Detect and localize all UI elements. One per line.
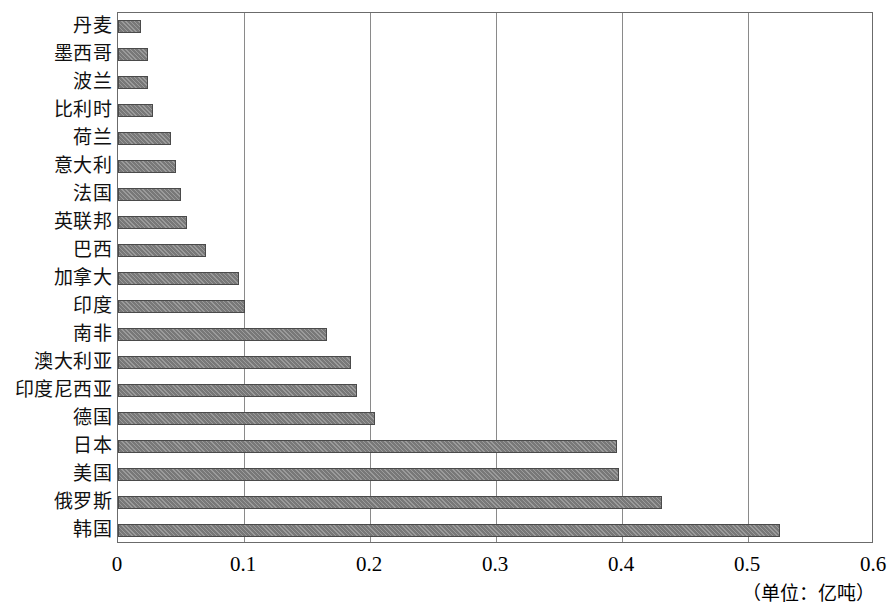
category-label: 韩国 <box>0 516 112 544</box>
bar-row <box>118 433 872 461</box>
bar <box>118 244 206 257</box>
category-label: 南非 <box>0 320 112 348</box>
bar <box>118 272 239 285</box>
bar <box>118 20 141 33</box>
category-label: 日本 <box>0 432 112 460</box>
x-tick-label: 0.5 <box>712 552 782 577</box>
bar <box>118 160 176 173</box>
bar-chart: 丹麦墨西哥波兰比利时荷兰意大利法国英联邦巴西加拿大印度南非澳大利亚印度尼西亚德国… <box>0 0 887 608</box>
bar <box>118 468 619 481</box>
category-label: 德国 <box>0 404 112 432</box>
category-label: 巴西 <box>0 236 112 264</box>
bar-row <box>118 181 872 209</box>
bar <box>118 48 148 61</box>
bar <box>118 496 662 509</box>
unit-annotation: （单位：亿吨） <box>742 578 875 605</box>
bar <box>118 328 327 341</box>
bar <box>118 412 375 425</box>
x-tick-label: 0 <box>82 552 152 577</box>
plot-area <box>117 12 873 543</box>
category-label: 印度 <box>0 292 112 320</box>
bar-row <box>118 405 872 433</box>
bar-row <box>118 209 872 237</box>
category-label: 丹麦 <box>0 12 112 40</box>
bar-row <box>118 69 872 97</box>
bar <box>118 104 153 117</box>
x-tick-label: 0.1 <box>208 552 278 577</box>
x-tick-label: 0.2 <box>334 552 404 577</box>
bar <box>118 356 351 369</box>
bar-row <box>118 153 872 181</box>
category-label: 美国 <box>0 460 112 488</box>
category-axis-labels: 丹麦墨西哥波兰比利时荷兰意大利法国英联邦巴西加拿大印度南非澳大利亚印度尼西亚德国… <box>0 12 112 543</box>
category-label: 英联邦 <box>0 208 112 236</box>
bar-row <box>118 489 872 517</box>
category-label: 印度尼西亚 <box>0 376 112 404</box>
bar-row <box>118 265 872 293</box>
bar <box>118 384 357 397</box>
bar <box>118 188 181 201</box>
bar <box>118 300 245 313</box>
x-tick-label: 0.6 <box>838 552 887 577</box>
category-label: 澳大利亚 <box>0 348 112 376</box>
x-tick-label: 0.4 <box>586 552 656 577</box>
bar-row <box>118 237 872 265</box>
category-label: 荷兰 <box>0 124 112 152</box>
bar <box>118 216 187 229</box>
bar-row <box>118 349 872 377</box>
bar-row <box>118 97 872 125</box>
category-label: 法国 <box>0 180 112 208</box>
bar-row <box>118 461 872 489</box>
category-label: 意大利 <box>0 152 112 180</box>
bar-row <box>118 125 872 153</box>
bars-container <box>118 13 872 542</box>
category-label: 比利时 <box>0 96 112 124</box>
category-label: 波兰 <box>0 68 112 96</box>
bar <box>118 440 617 453</box>
bar <box>118 132 171 145</box>
bar <box>118 76 148 89</box>
bar-row <box>118 13 872 41</box>
bar-row <box>118 41 872 69</box>
bar <box>118 524 780 537</box>
bar-row <box>118 321 872 349</box>
category-label: 加拿大 <box>0 264 112 292</box>
bar-row <box>118 377 872 405</box>
bar-row <box>118 293 872 321</box>
x-tick-label: 0.3 <box>460 552 530 577</box>
bar-row <box>118 517 872 545</box>
category-label: 墨西哥 <box>0 40 112 68</box>
category-label: 俄罗斯 <box>0 488 112 516</box>
